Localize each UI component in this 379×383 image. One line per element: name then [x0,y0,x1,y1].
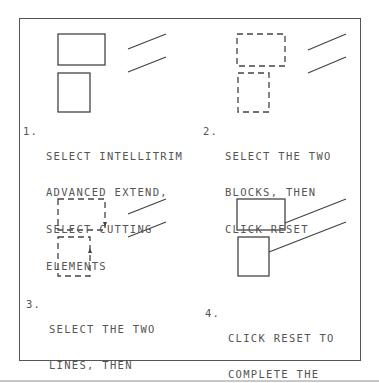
step-number: 1. [23,125,38,137]
step-1-caption: 1. SELECT INTELLITRIM ADVANCED EXTEND, S… [23,125,38,162]
step-2-caption: 2. SELECT THE TWO BLOCKS, THEN CLICK RES… [203,125,218,162]
caption-line: ADVANCED EXTEND, [46,186,183,198]
caption-line: LINES, THEN [49,359,156,371]
caption-line: SELECT INTELLITRIM [46,150,183,162]
step-4-caption: 4. CLICK RESET TO COMPLETE THE EXTENSION [205,307,220,344]
bottom-divider [0,380,379,382]
caption-line: CLICK RESET TO [228,332,335,344]
step-number: 3. [26,298,41,310]
step-number: 4. [205,307,220,319]
step-3-caption: 3. SELECT THE TWO LINES, THEN CLICK RESE… [26,298,41,335]
block-top [58,34,105,65]
line-upper [308,34,346,50]
block-top-selected [237,34,285,66]
caption-line: SELECT THE TWO [49,323,156,335]
caption-line: SELECT CUTTING [46,223,183,235]
block-bottom-selected [238,73,269,112]
caption-line: COMPLETE THE [228,368,335,380]
line-upper [128,34,166,49]
step-number: 2. [203,125,218,137]
panel-1-figure [58,34,166,112]
panel-2-figure [237,34,346,112]
line-lower [128,57,166,72]
line-lower [308,57,346,73]
caption-line: CLICK RESET [225,223,332,235]
caption-line: BLOCKS, THEN [225,186,332,198]
caption-line: ELEMENTS [46,260,183,272]
caption-line: SELECT THE TWO [225,150,332,162]
block-bottom [58,73,90,112]
